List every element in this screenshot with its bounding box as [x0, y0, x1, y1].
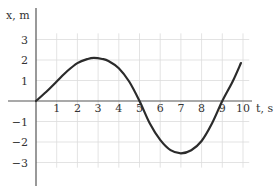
x-axis-label: t, s	[256, 102, 273, 115]
x-tick-label: 2	[74, 102, 81, 115]
y-tick-label: −3	[12, 157, 28, 170]
position-time-chart: 12345678910321−1−2−3 x, m t, s	[0, 0, 280, 196]
y-tick-label: −1	[12, 116, 28, 129]
x-tick-label: 1	[53, 102, 60, 115]
x-tick-label: 8	[198, 102, 205, 115]
x-tick-label: 3	[95, 102, 102, 115]
y-tick-label: 1	[21, 75, 28, 88]
x-tick-label: 6	[157, 102, 164, 115]
x-tick-label: 10	[236, 102, 250, 115]
y-tick-label: −2	[12, 136, 28, 149]
y-axis-label: x, m	[6, 9, 30, 22]
x-tick-label: 7	[177, 102, 184, 115]
y-tick-label: 3	[21, 34, 28, 47]
axes	[8, 8, 252, 186]
y-tick-label: 2	[21, 54, 28, 67]
x-tick-label: 4	[115, 102, 122, 115]
